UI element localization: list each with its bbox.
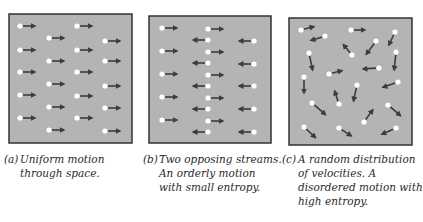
caption-a: (a)Uniform motion through space. (4, 152, 104, 180)
caption-b-line-1: Two opposing streams. (159, 153, 282, 165)
panel-box (289, 18, 412, 145)
panel-a-graphic (9, 14, 132, 143)
particle-dot (46, 127, 51, 132)
particle-dot (17, 69, 22, 74)
particle-dot (251, 129, 256, 134)
panel-c-graphic (289, 18, 412, 145)
caption-a-label: (a) (4, 152, 20, 166)
particle-dot (205, 106, 210, 111)
particle-dot (159, 94, 164, 99)
particle-dot (17, 92, 22, 97)
particle-dot (393, 125, 398, 130)
particle-dot (336, 101, 341, 106)
particle-dot (205, 118, 210, 123)
particle-dot (159, 48, 164, 53)
particle-dot (395, 79, 400, 84)
particle-dot (17, 115, 22, 120)
particle-dot (205, 37, 210, 42)
caption-c-line-3: disordered motion with (282, 180, 423, 194)
particle-dot (46, 58, 51, 63)
particle-dot (102, 58, 107, 63)
particle-dot (373, 38, 378, 43)
particle-dot (159, 117, 164, 122)
particle-dot (336, 125, 341, 130)
particle-dot (205, 60, 210, 65)
caption-b-line-2: An orderly motion (143, 166, 282, 180)
particle-dot (74, 23, 79, 28)
particle-dot (301, 124, 306, 129)
particle-dot (74, 47, 79, 52)
particle-dot (376, 65, 381, 70)
particle-dot (301, 74, 306, 79)
particle-dot (354, 82, 359, 87)
particle-dot (17, 23, 22, 28)
caption-c-label: (c) (282, 152, 298, 166)
panel-box (149, 16, 271, 143)
particle-dot (205, 72, 210, 77)
particle-dot (251, 106, 256, 111)
particle-dot (159, 25, 164, 30)
particle-dot (17, 47, 22, 52)
particle-dot (46, 81, 51, 86)
particle-dot (102, 83, 107, 88)
caption-a-line-2: through space. (4, 166, 104, 180)
particle-dot (348, 27, 353, 32)
caption-c-line-1: A random distribution (298, 153, 416, 165)
caption-c: (c)A random distribution of velocities. … (282, 152, 423, 208)
particle-dot (322, 33, 327, 38)
caption-b-label: (b) (143, 152, 159, 166)
particle-dot (205, 83, 210, 88)
particle-dot (74, 115, 79, 120)
particle-dot (309, 100, 314, 105)
particle-dot (74, 93, 79, 98)
velocity-arrow-icon (363, 68, 376, 69)
particle-dot (298, 27, 303, 32)
particle-dot (102, 38, 107, 43)
particle-dot (393, 49, 398, 54)
particle-dot (74, 69, 79, 74)
particle-dot (46, 104, 51, 109)
particle-dot (102, 105, 107, 110)
particle-dot (251, 61, 256, 66)
particle-dot (46, 35, 51, 40)
particle-dot (205, 95, 210, 100)
panel-b-graphic (149, 16, 271, 143)
particle-dot (205, 129, 210, 134)
particle-dot (205, 26, 210, 31)
caption-c-line-2: of velocities. A (282, 166, 423, 180)
caption-a-line-1: Uniform motion (20, 153, 104, 165)
particle-dot (159, 71, 164, 76)
particle-dot (251, 83, 256, 88)
particle-dot (392, 29, 397, 34)
particle-dot (102, 128, 107, 133)
particle-dot (385, 102, 390, 107)
caption-b-line-3: with small entropy. (143, 180, 282, 194)
particle-dot (251, 38, 256, 43)
particle-dot (326, 71, 331, 76)
particle-dot (349, 52, 354, 57)
caption-b: (b)Two opposing streams. An orderly moti… (143, 152, 282, 194)
particle-dot (361, 119, 366, 124)
caption-c-line-4: high entropy. (282, 194, 423, 208)
particle-dot (205, 49, 210, 54)
particle-dot (306, 50, 311, 55)
panel-box (9, 14, 132, 143)
